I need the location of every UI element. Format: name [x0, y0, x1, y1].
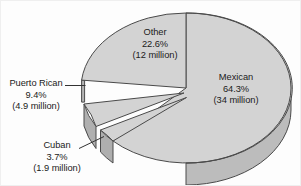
slice-label-cuban-percent: 3.7%	[18, 152, 96, 164]
slice-side-other	[82, 80, 85, 102]
slice-label-mexican: Mexican 64.3% (34 million)	[196, 72, 276, 107]
slice-label-cuban: Cuban 3.7% (1.9 million)	[18, 140, 96, 175]
slice-label-mexican-count: (34 million)	[196, 95, 276, 107]
pie-chart-figure: Other 22.6% (12 million) Mexican 64.3% (…	[0, 0, 301, 186]
slice-label-other: Other 22.6% (12 million)	[113, 27, 197, 62]
slice-label-puerto-rican: Puerto Rican 9.4% (4.9 million)	[2, 78, 70, 113]
slice-label-puerto-rican-percent: 9.4%	[2, 90, 70, 102]
slice-label-puerto-rican-name: Puerto Rican	[2, 78, 70, 90]
slice-label-mexican-name: Mexican	[196, 72, 276, 84]
slice-label-mexican-percent: 64.3%	[196, 84, 276, 96]
slice-label-other-name: Other	[113, 27, 197, 39]
slice-label-other-percent: 22.6%	[113, 39, 197, 51]
slice-label-puerto-rican-count: (4.9 million)	[2, 101, 70, 113]
slice-label-other-count: (12 million)	[113, 50, 197, 62]
slice-label-cuban-count: (1.9 million)	[18, 163, 96, 175]
slice-label-cuban-name: Cuban	[18, 140, 96, 152]
